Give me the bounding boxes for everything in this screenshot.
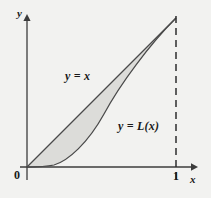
x-axis-arrowhead bbox=[191, 163, 198, 171]
figure-panel: y x 0 1 y = x y = L(x) bbox=[0, 0, 211, 198]
plot-canvas bbox=[0, 0, 211, 198]
line-y-equals-x bbox=[27, 18, 176, 167]
y-axis-arrowhead bbox=[23, 14, 30, 21]
